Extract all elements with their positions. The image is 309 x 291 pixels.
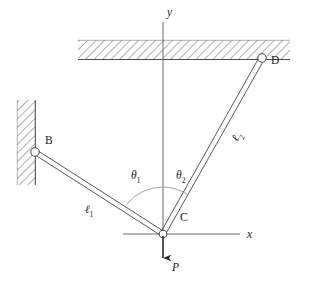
- member-label-l1: ℓ1: [85, 200, 93, 219]
- pin-joints: [31, 54, 266, 238]
- angle-label-theta1-subscript: 1: [137, 176, 141, 185]
- angle-label-theta2-subscript: 2: [182, 176, 186, 185]
- member-bc: [35, 150, 165, 236]
- member-cd: [161, 57, 265, 234]
- load-label-p: P: [172, 262, 179, 274]
- member-bc-edge-top: [36, 150, 164, 232]
- y-axis-label: y: [167, 7, 172, 19]
- angle-label-theta1: θ1: [131, 166, 140, 185]
- angle-arcs: [126, 187, 187, 205]
- angle-label-theta2: θ2: [176, 166, 185, 185]
- left-wall-support: [17, 100, 35, 185]
- theta1-arc: [126, 187, 163, 205]
- x-axis-label: x: [247, 229, 252, 241]
- pin-joint-d: [258, 54, 266, 62]
- pin-joint-b: [31, 148, 39, 156]
- mechanics-figure: y x B D C ℓ1 ℓ2 θ1 θ2 P: [0, 0, 309, 291]
- wall-hatch: [17, 100, 35, 185]
- member-cd-edge-right: [165, 60, 264, 235]
- member-cd-edge-left: [161, 57, 260, 232]
- joint-label-d: D: [271, 55, 279, 67]
- joint-label-b: B: [45, 135, 53, 147]
- member-label-l1-subscript: 1: [90, 210, 94, 219]
- joint-label-c: C: [180, 212, 188, 224]
- member-bc-edge-bottom: [35, 155, 162, 237]
